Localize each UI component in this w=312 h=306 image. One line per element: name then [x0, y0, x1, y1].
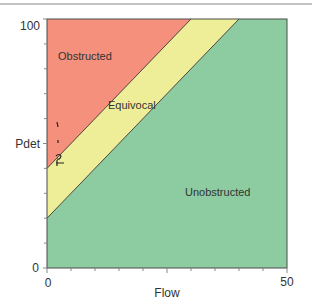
y-tick-label-0: 0 [32, 261, 39, 275]
pressure-flow-nomogram: 100 Pdet 0 0 50 Flow Obstructed Equivoca… [0, 0, 312, 306]
x-axis-title: Flow [154, 286, 180, 300]
region-label-unobstructed: Unobstructed [185, 186, 250, 198]
region-label-equivocal: Equivocal [108, 99, 156, 111]
y-tick-label-100: 100 [20, 19, 40, 33]
x-tick-label-50: 50 [280, 275, 294, 289]
y-axis-ticks [43, 19, 47, 268]
y-axis-title: Pdet [15, 137, 40, 151]
region-label-obstructed: Obstructed [58, 50, 112, 62]
x-axis-ticks [47, 268, 287, 273]
x-tick-label-0: 0 [45, 276, 52, 290]
